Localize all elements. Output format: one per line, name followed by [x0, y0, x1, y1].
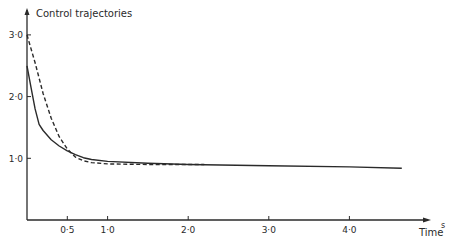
- chart-title: Control trajectories: [36, 8, 132, 19]
- axes: [25, 8, 432, 223]
- x-tick-label: 4·0: [342, 225, 357, 235]
- x-axis-unit: s: [441, 221, 445, 230]
- y-tick-label: 3·0: [9, 30, 24, 40]
- control-trajectories-chart: 0·51·02·03·04·01·02·03·0 Control traject…: [0, 0, 452, 243]
- x-tick-label: 0·5: [60, 225, 74, 235]
- x-axis-label: Time: [418, 227, 443, 238]
- series-solid-line: [27, 66, 402, 168]
- y-axis-arrow-icon: [25, 8, 30, 15]
- data-lines: [27, 35, 402, 168]
- x-tick-label: 3·0: [262, 225, 277, 235]
- x-tick-label: 1·0: [100, 225, 115, 235]
- y-tick-label: 2·0: [9, 92, 24, 102]
- ticks: 0·51·02·03·04·01·02·03·0: [9, 30, 357, 235]
- series-dashed-line: [27, 35, 204, 165]
- x-tick-label: 2·0: [181, 225, 196, 235]
- x-axis-arrow-icon: [423, 218, 431, 223]
- y-tick-label: 1·0: [9, 154, 24, 164]
